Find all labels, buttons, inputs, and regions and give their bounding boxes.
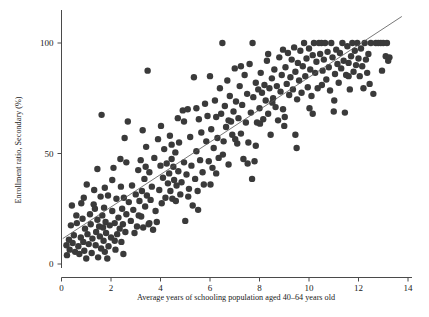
data-point	[284, 81, 290, 87]
data-point	[366, 81, 372, 87]
data-point	[370, 91, 376, 97]
data-point	[152, 208, 158, 214]
data-point	[105, 243, 111, 249]
data-point	[185, 193, 191, 199]
data-point	[91, 187, 97, 193]
data-point	[73, 212, 79, 218]
data-point	[115, 214, 121, 220]
data-point	[332, 71, 338, 77]
data-point	[134, 223, 140, 229]
data-point	[204, 113, 210, 119]
data-point	[195, 207, 201, 213]
y-axis-title: Enrollment ratio, Secondary (%)	[14, 96, 23, 203]
data-point	[140, 224, 146, 230]
data-point	[238, 130, 244, 136]
scatter-plot-figure: 050100 02468101214 Enrollment ratio, Sec…	[0, 0, 429, 317]
data-point	[384, 40, 390, 46]
data-point	[213, 170, 219, 176]
data-point	[235, 115, 241, 121]
data-point	[123, 159, 129, 165]
data-points-group	[63, 40, 392, 262]
data-point	[188, 162, 194, 168]
data-point	[191, 74, 197, 80]
data-point	[363, 56, 369, 62]
data-point	[136, 212, 142, 218]
data-point	[151, 155, 157, 161]
data-point	[146, 169, 152, 175]
data-point	[245, 139, 251, 145]
data-point	[130, 207, 136, 213]
data-point	[120, 221, 126, 227]
data-point	[223, 124, 229, 130]
data-point	[84, 231, 90, 237]
data-point	[355, 55, 361, 61]
data-point	[118, 183, 124, 189]
data-point	[218, 111, 224, 117]
data-point	[275, 117, 281, 123]
data-point	[331, 108, 337, 114]
data-point	[175, 168, 181, 174]
data-point	[296, 77, 302, 83]
data-point	[207, 181, 213, 187]
data-point	[66, 246, 72, 252]
data-point	[220, 138, 226, 144]
data-point	[206, 158, 212, 164]
data-point	[109, 208, 115, 214]
data-point	[348, 53, 354, 59]
data-point	[142, 203, 148, 209]
data-point	[193, 105, 199, 111]
data-point	[248, 109, 254, 115]
data-point	[306, 45, 312, 51]
data-point	[160, 175, 166, 181]
data-point	[167, 188, 173, 194]
data-point	[87, 211, 93, 217]
data-point	[136, 198, 142, 204]
data-point	[269, 75, 275, 81]
data-point	[138, 157, 144, 163]
data-point	[308, 93, 314, 99]
data-point	[202, 101, 208, 107]
data-point	[199, 169, 205, 175]
data-point	[298, 90, 304, 96]
data-point	[69, 202, 75, 208]
data-point	[365, 51, 371, 57]
data-point	[112, 246, 118, 252]
y-tick-label: 100	[40, 38, 54, 48]
data-point	[178, 179, 184, 185]
data-point	[251, 158, 257, 164]
data-point	[280, 106, 286, 112]
data-point	[291, 44, 297, 50]
data-point	[172, 149, 178, 155]
data-point	[322, 40, 328, 46]
x-tick-label: 6	[208, 283, 213, 293]
data-point	[94, 166, 100, 172]
data-point	[173, 198, 179, 204]
data-point	[359, 63, 365, 69]
data-point	[68, 222, 74, 228]
data-point	[118, 239, 124, 245]
data-point	[303, 55, 309, 61]
data-point	[112, 238, 118, 244]
data-point	[177, 191, 183, 197]
data-point	[264, 57, 270, 63]
data-point	[313, 59, 319, 65]
data-point	[350, 69, 356, 75]
data-point	[301, 40, 307, 46]
data-point	[131, 230, 137, 236]
data-point	[201, 181, 207, 187]
data-point	[146, 220, 152, 226]
y-tick-label: 50	[45, 149, 55, 159]
data-point	[323, 76, 329, 82]
data-point	[319, 82, 325, 88]
data-point	[211, 145, 217, 151]
data-point	[122, 229, 128, 235]
data-point	[168, 141, 174, 147]
data-point	[208, 126, 214, 132]
x-axis-title: Average years of schooling population ag…	[137, 293, 335, 302]
data-point	[288, 56, 294, 62]
data-point	[100, 238, 106, 244]
data-point	[238, 63, 244, 69]
data-point	[78, 200, 84, 206]
data-point	[97, 193, 103, 199]
data-point	[102, 185, 108, 191]
